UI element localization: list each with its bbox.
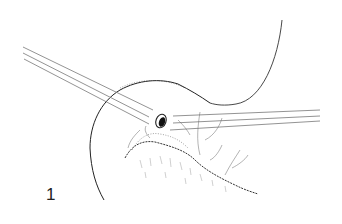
figure-number: 1	[46, 186, 55, 203]
right-retraction-lines	[170, 110, 320, 130]
contour-curve	[210, 20, 282, 105]
organ-outline	[90, 81, 210, 200]
tissue-edge	[125, 142, 258, 194]
organ-top-shading	[120, 81, 185, 89]
central-opening	[154, 113, 168, 130]
left-retraction-lines	[23, 47, 153, 124]
tissue-inner-edge	[132, 134, 188, 150]
vessel-branches	[128, 112, 248, 175]
illustration-canvas: 1	[0, 0, 342, 224]
